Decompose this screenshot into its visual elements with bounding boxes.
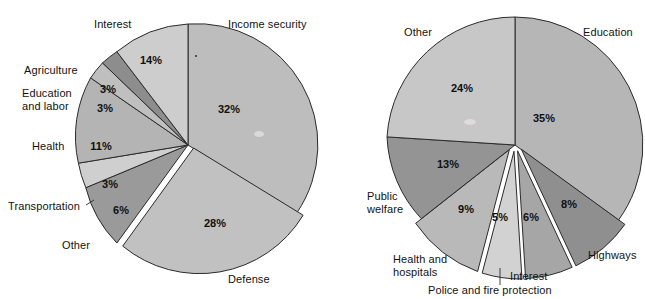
pct-interest-left: 14% (140, 54, 162, 66)
label-health-and-hospitals: Health and hospitals (393, 253, 469, 278)
pct-income-security: 32% (218, 103, 240, 115)
label-health: Health (32, 140, 64, 153)
label-highways: Highways (588, 249, 637, 262)
right-pie-group (387, 17, 643, 279)
pct-interest-right: 6% (523, 211, 539, 223)
label-other-right: Other (404, 26, 432, 39)
label-education: Education (583, 26, 633, 39)
pct-education: 35% (533, 112, 555, 124)
pct-transportation: 3% (102, 178, 118, 190)
label-education-and-labor: Education and labor (22, 87, 82, 112)
label-police-and-fire: Police and fire protection (428, 284, 552, 297)
label-defense: Defense (228, 273, 270, 286)
pct-police-and-fire: 5% (492, 211, 508, 223)
label-agriculture: Agriculture (24, 64, 78, 77)
pct-other-right: 24% (451, 82, 473, 94)
label-income-security: Income security (228, 18, 307, 31)
pct-agriculture: 3% (100, 83, 116, 95)
pct-highways: 8% (561, 198, 577, 210)
scan-speck (195, 55, 197, 57)
pct-defense: 28% (204, 217, 226, 229)
label-public-welfare: Public welfare (367, 190, 417, 215)
left-pie-group (75, 24, 317, 274)
label-other-left: Other (62, 239, 90, 252)
scan-blemish-right (464, 119, 476, 125)
label-transportation: Transportation (8, 200, 80, 213)
label-interest-left: Interest (94, 18, 132, 31)
label-interest-right: Interest (510, 270, 548, 283)
pie-charts-svg: 32% 28% 6% 3% 11% 3% 3% 14% 35% 8% 6% 5%… (0, 0, 645, 299)
scan-blemish (254, 131, 264, 137)
pct-health: 11% (90, 140, 112, 152)
two-pie-chart-figure: 32% 28% 6% 3% 11% 3% 3% 14% 35% 8% 6% 5%… (0, 0, 645, 299)
pct-education-and-labor: 3% (97, 102, 113, 114)
pct-public-welfare: 13% (437, 158, 459, 170)
pct-health-and-hospitals: 9% (458, 203, 474, 215)
pct-other-left: 6% (113, 204, 129, 216)
